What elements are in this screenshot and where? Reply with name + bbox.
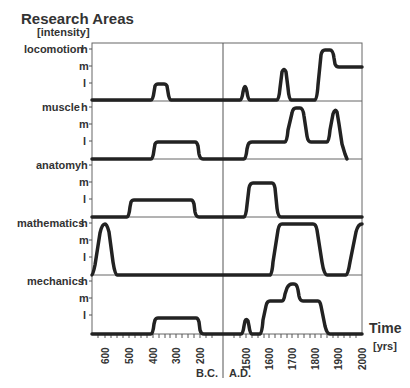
x-axis-unit: [yrs] bbox=[373, 340, 397, 352]
curve-muscle bbox=[92, 108, 347, 159]
svg-text:2000: 2000 bbox=[357, 347, 368, 370]
row-label-mathematics: mathematics bbox=[17, 217, 84, 229]
svg-text:l: l bbox=[83, 193, 86, 205]
svg-text:300: 300 bbox=[171, 347, 182, 364]
era-label-ad: A.D. bbox=[229, 367, 251, 379]
x-axis-label: Time bbox=[369, 320, 402, 336]
chart-subtitle: [intensity] bbox=[37, 26, 90, 38]
svg-text:500: 500 bbox=[124, 347, 135, 364]
svg-text:600: 600 bbox=[100, 347, 111, 364]
svg-text:l: l bbox=[83, 135, 86, 147]
svg-text:m: m bbox=[79, 292, 89, 304]
svg-text:m: m bbox=[79, 118, 89, 130]
row-label-anatomy: anatomy bbox=[36, 159, 82, 171]
data-curves bbox=[92, 50, 362, 334]
level-labels: h m l h m l h m l h m l h m l bbox=[79, 43, 89, 321]
svg-text:h: h bbox=[81, 101, 88, 113]
svg-text:h: h bbox=[81, 217, 88, 229]
row-label-locomotion: locomotion bbox=[24, 43, 84, 55]
svg-text:1600: 1600 bbox=[264, 347, 275, 370]
svg-text:l: l bbox=[83, 77, 86, 89]
svg-text:1700: 1700 bbox=[287, 347, 298, 370]
svg-text:m: m bbox=[79, 176, 89, 188]
research-areas-chart: Research Areas [intensity] locomotion mu… bbox=[0, 0, 410, 388]
curve-mathematics bbox=[92, 224, 362, 275]
svg-text:h: h bbox=[81, 159, 88, 171]
svg-text:l: l bbox=[83, 309, 86, 321]
plot-frame bbox=[92, 43, 362, 334]
svg-text:1800: 1800 bbox=[310, 347, 321, 370]
svg-text:400: 400 bbox=[148, 347, 159, 364]
row-label-mechanics: mechanics bbox=[27, 275, 84, 287]
svg-text:m: m bbox=[79, 60, 89, 72]
svg-text:l: l bbox=[83, 251, 86, 263]
row-label-muscle: muscle bbox=[42, 101, 80, 113]
era-label-bc: B.C. bbox=[196, 367, 218, 379]
svg-text:200: 200 bbox=[195, 347, 206, 364]
curve-mechanics bbox=[92, 284, 362, 334]
svg-text:h: h bbox=[81, 43, 88, 55]
chart-title: Research Areas bbox=[21, 10, 134, 27]
svg-text:1900: 1900 bbox=[333, 347, 344, 370]
row-labels: locomotion muscle anatomy mathematics me… bbox=[17, 43, 84, 287]
curve-locomotion bbox=[92, 50, 362, 100]
curve-anatomy bbox=[92, 183, 362, 217]
svg-text:h: h bbox=[81, 275, 88, 287]
svg-text:m: m bbox=[79, 234, 89, 246]
